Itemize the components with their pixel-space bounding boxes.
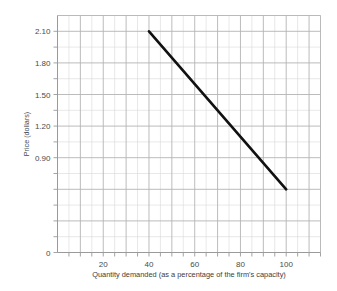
y-axis-title: Price (dollars) <box>22 112 31 156</box>
y-tick-label: 2.10 <box>35 27 51 36</box>
y-tick-label: 1.20 <box>35 122 51 131</box>
x-tick-label: 60 <box>190 260 199 269</box>
x-tick-label: 80 <box>236 260 245 269</box>
x-axis-title: Quantity demanded (as a percentage of th… <box>92 270 286 279</box>
y-tick-label: 0.90 <box>35 154 51 163</box>
y-tick-label: 0 <box>46 249 51 258</box>
y-tick-label: 1.80 <box>35 59 51 68</box>
x-tick-label: 100 <box>280 260 294 269</box>
y-tick-label: 1.50 <box>35 91 51 100</box>
demand-curve-chart: 2.101.801.501.200.900 20406080100 Quanti… <box>0 0 337 291</box>
x-tick-label: 40 <box>145 260 154 269</box>
x-tick-label: 20 <box>99 260 108 269</box>
chart-figure: 2.101.801.501.200.900 20406080100 Quanti… <box>0 0 337 291</box>
